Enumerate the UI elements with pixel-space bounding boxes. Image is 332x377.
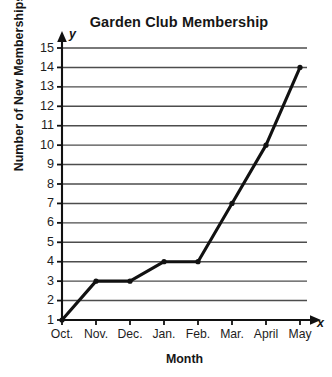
y-axis-tick-label: 7 [28,197,54,210]
y-axis-tick-label: 9 [28,158,54,171]
data-point-marker [93,279,98,284]
data-point-markers [59,65,302,323]
y-axis-arrowhead [57,31,67,42]
y-axis-tick-label: 10 [28,139,54,152]
data-point-marker [297,65,302,70]
chart-container: Garden Club Membership Number of New Mem… [0,0,332,377]
data-point-marker [161,259,166,264]
y-axis-tick-label: 14 [28,61,54,74]
y-axis-tick-label: 4 [28,255,54,268]
y-axis-tick-label: 15 [28,42,54,55]
data-point-marker [229,201,234,206]
y-axis-tick-label: 13 [28,80,54,93]
y-axis-tick-label: 6 [28,216,54,229]
y-axis-tick-label: 1 [28,314,54,327]
y-axis-tick-label: 8 [28,178,54,191]
y-axis-letter: y [69,27,76,41]
data-point-marker [195,259,200,264]
y-axis-tick-label: 2 [28,294,54,307]
data-point-marker [127,279,132,284]
y-axis-tick-label: 5 [28,236,54,249]
data-point-marker [59,317,64,322]
y-axis-tick-label: 11 [28,119,54,132]
data-point-marker [263,143,268,148]
y-axis-tick-label: 3 [28,275,54,288]
y-axis-tick-label: 12 [28,100,54,113]
x-axis-letter: x [317,316,324,330]
